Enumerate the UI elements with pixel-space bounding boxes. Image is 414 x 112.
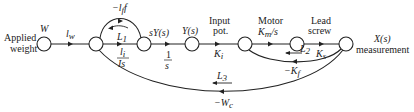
sY-label: sY(s): [149, 27, 170, 39]
arrow-icon: [108, 26, 113, 31]
node-Y: [185, 37, 199, 51]
W-label: W: [40, 23, 50, 34]
node-input-pot: [238, 37, 252, 51]
one-over-s-num: 1: [166, 49, 171, 60]
arrow-icon: [319, 42, 324, 47]
Ki-label: Ki: [213, 48, 224, 61]
minus-lf-f-label: −lff: [112, 2, 128, 15]
arrow-icon: [285, 51, 290, 55]
arrow-icon: [268, 42, 273, 47]
node-W: [37, 37, 51, 51]
applied-label: Applied: [4, 32, 36, 43]
Ys-label: Y(s): [182, 25, 199, 37]
measurement-label: measurement: [356, 44, 410, 55]
Km-label: Km/s: [257, 26, 278, 39]
one-over-s-den: s: [165, 60, 169, 71]
L3-label: L3: [216, 70, 228, 83]
arrow-icon: [212, 81, 217, 85]
signal-flow-graph: Applied weight W lw −lff L1 li Is sY(s) …: [0, 0, 414, 112]
arrow-icon: [219, 89, 224, 94]
lw-label: lw: [66, 28, 75, 41]
node-sY: [137, 37, 151, 51]
arrow-icon: [68, 42, 73, 47]
arrow-icon: [165, 42, 170, 47]
screw-label: screw: [308, 25, 332, 36]
arrow-icon: [118, 19, 123, 24]
node-2: [89, 37, 103, 51]
motor-label: Motor: [258, 15, 284, 26]
arrow-icon: [215, 42, 220, 47]
minus-Wc-label: −Wc: [214, 97, 233, 110]
frac-1-Is-den: Is: [117, 58, 125, 69]
pot-label: pot.: [213, 25, 228, 36]
arrow-icon: [292, 59, 297, 64]
L2-label: L2: [299, 43, 311, 56]
minus-Kf-label: −Kf: [284, 65, 301, 78]
node-X: [339, 37, 353, 51]
weight-label: weight: [10, 43, 37, 54]
